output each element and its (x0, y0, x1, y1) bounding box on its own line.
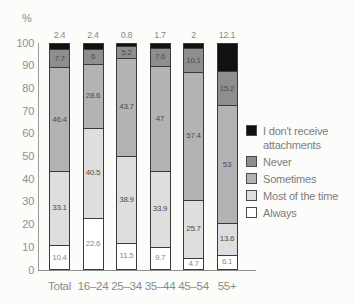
y-tick-label: 0 (0, 265, 34, 276)
bar-segment: 57.4 (184, 72, 203, 200)
bar-segment: 38.9 (117, 156, 136, 243)
segment-value-label: 43.7 (119, 103, 133, 111)
legend-swatch (246, 190, 257, 201)
bar: 210.157.425.74.7 (183, 43, 204, 270)
segment-value-label: 4.7 (188, 260, 198, 268)
bar-segment: 28.6 (84, 64, 103, 128)
segment-value-label: 9.7 (155, 254, 165, 262)
segment-value-label: 33.9 (153, 205, 167, 213)
x-axis-category-label: 16–24 (78, 280, 108, 292)
bar-segment: 7.7 (50, 49, 69, 67)
legend-item-label: Most of the time (263, 189, 338, 203)
y-tick-label: 30 (0, 196, 34, 207)
bar-segment: 9.7 (151, 247, 170, 269)
segment-value-label: 10.4 (52, 254, 66, 262)
y-tick-label: 40 (0, 174, 34, 185)
segment-value-label: 53 (223, 161, 231, 169)
legend-item-label: Never (263, 155, 291, 169)
bar-segment (218, 44, 237, 71)
segment-value-label: 7.7 (54, 55, 64, 63)
segment-value-label: 40.5 (86, 169, 100, 177)
y-axis-line (38, 43, 39, 270)
bar-segment: 25.7 (184, 200, 203, 258)
bar-segment: 11.5 (117, 243, 136, 269)
x-axis-category-label: Total (48, 280, 71, 292)
legend-swatch (246, 125, 257, 136)
bar: 1.77.64733.99.7 (150, 43, 171, 270)
bar-segment: 15.2 (218, 71, 237, 106)
y-tick-label: 60 (0, 128, 34, 139)
legend-swatch (246, 207, 257, 218)
segment-value-label: 15.2 (220, 85, 234, 93)
x-axis-line (38, 270, 256, 271)
segment-value-label: 57.4 (186, 132, 200, 140)
bar-segment: 40.5 (84, 128, 103, 218)
bar-segment: 22.6 (84, 218, 103, 269)
bar-segment: 4.7 (184, 258, 203, 269)
legend-item-label: Sometimes (263, 172, 316, 186)
percent-axis-label: % (22, 12, 32, 24)
bar: 12.115.25313.66.1 (217, 43, 238, 270)
x-axis-category-label: 45–54 (178, 280, 208, 292)
y-tick-label: 70 (0, 106, 34, 117)
bar-top-value-label: 2 (191, 30, 196, 40)
legend-item: Never (246, 155, 352, 169)
bar-top-value-label: 2.4 (87, 30, 99, 40)
segment-value-label: 25.7 (186, 225, 200, 233)
x-axis-category-label: 35–44 (145, 280, 175, 292)
bar-segment: 6 (84, 49, 103, 63)
segment-value-label: 6.1 (222, 258, 232, 266)
bar: 0.85.243.738.911.5 (116, 43, 137, 270)
bar-segment: 43.7 (117, 58, 136, 155)
legend: I don't receive attachmentsNeverSometime… (246, 124, 352, 220)
bar-segment: 33.1 (50, 171, 69, 245)
segment-value-label: 28.6 (86, 92, 100, 100)
bar-segment: 33.9 (151, 171, 170, 247)
y-tick-label: 20 (0, 219, 34, 230)
y-tick-label: 10 (0, 242, 34, 253)
legend-item: Always (246, 206, 352, 220)
legend-item: Most of the time (246, 189, 352, 203)
bar: 2.47.746.433.110.4 (49, 43, 70, 270)
legend-swatch (246, 173, 257, 184)
bar-segment: 6.1 (218, 255, 237, 269)
y-tick-label: 80 (0, 83, 34, 94)
segment-value-label: 7.6 (155, 53, 165, 61)
legend-item-label: I don't receive attachments (263, 124, 352, 152)
bar-segment: 13.6 (218, 223, 237, 254)
legend-swatch (246, 156, 257, 167)
bar-top-value-label: 12.1 (219, 30, 235, 40)
legend-item: I don't receive attachments (246, 124, 352, 152)
segment-value-label: 11.5 (120, 252, 134, 260)
bar: 2.4628.640.522.6 (83, 43, 104, 270)
y-tick-label: 50 (0, 151, 34, 162)
segment-value-label: 22.6 (86, 240, 100, 248)
bar-top-value-label: 2.4 (54, 30, 66, 40)
stacked-bar-chart: % 0102030405060708090100 2.47.746.433.11… (0, 0, 354, 305)
segment-value-label: 5.2 (121, 49, 131, 57)
segment-value-label: 47 (156, 115, 164, 123)
x-axis-category-label: 55+ (218, 280, 237, 292)
bar-segment: 10.4 (50, 245, 69, 269)
bar-segment: 47 (151, 66, 170, 171)
segment-value-label: 46.4 (52, 116, 66, 124)
x-axis-category-label: 25–34 (111, 280, 141, 292)
segment-value-label: 6 (91, 53, 95, 61)
legend-item-label: Always (263, 206, 297, 220)
segment-value-label: 13.6 (220, 235, 234, 243)
legend-item: Sometimes (246, 172, 352, 186)
bar-top-value-label: 0.8 (121, 30, 133, 40)
bar-segment: 10.1 (184, 48, 203, 71)
bar-segment: 5.2 (117, 46, 136, 58)
bar-segment: 46.4 (50, 67, 69, 171)
segment-value-label: 10.1 (186, 57, 200, 65)
bar-segment: 7.6 (151, 48, 170, 66)
y-tick-label: 90 (0, 60, 34, 71)
bar-top-value-label: 1.7 (154, 30, 166, 40)
y-tick-label: 100 (0, 38, 34, 49)
bar-segment: 53 (218, 105, 237, 223)
segment-value-label: 33.1 (52, 204, 66, 212)
segment-value-label: 38.9 (119, 196, 133, 204)
